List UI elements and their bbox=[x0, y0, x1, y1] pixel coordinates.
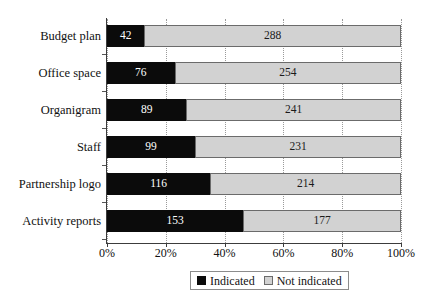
bar-value-label: 177 bbox=[314, 215, 331, 227]
stacked-bar-chart: Budget planOffice spaceOrganigramStaffPa… bbox=[0, 0, 428, 298]
bar-segment-not-indicated: 214 bbox=[210, 173, 401, 195]
bar-row: 42288 bbox=[107, 25, 401, 47]
bar-value-label: 288 bbox=[264, 30, 281, 42]
x-tick-label-20pct: 20% bbox=[155, 247, 177, 259]
bar-segment-indicated: 76 bbox=[107, 62, 175, 84]
legend-swatch-indicated-icon bbox=[197, 276, 206, 285]
chart-legend: IndicatedNot indicated bbox=[190, 271, 349, 290]
x-tick-mark bbox=[107, 243, 108, 247]
x-tick-label-100pct: 100% bbox=[387, 247, 415, 259]
category-label-organigram: Organigram bbox=[0, 104, 101, 117]
x-tick-label-40pct: 40% bbox=[214, 247, 236, 259]
x-tick-mark bbox=[401, 243, 402, 247]
x-axis-line bbox=[106, 243, 402, 244]
bar-segment-not-indicated: 231 bbox=[195, 136, 401, 158]
category-label-office-space: Office space bbox=[0, 67, 101, 80]
x-tick-label-80pct: 80% bbox=[331, 247, 353, 259]
bar-segment-indicated: 89 bbox=[107, 99, 186, 121]
bar-row: 76254 bbox=[107, 62, 401, 84]
category-label-activity-reports: Activity reports bbox=[0, 215, 101, 228]
bar-value-label: 231 bbox=[289, 141, 306, 153]
x-axis-tick-labels: 0%20%40%60%80%100% bbox=[0, 247, 428, 265]
bar-row: 153177 bbox=[107, 210, 401, 232]
x-tick-mark bbox=[166, 243, 167, 247]
legend-swatch-not-indicated-icon bbox=[264, 276, 273, 285]
bar-segment-not-indicated: 177 bbox=[243, 210, 401, 232]
y-axis-line bbox=[106, 18, 107, 244]
bar-value-label: 254 bbox=[279, 67, 296, 79]
bar-value-label: 153 bbox=[167, 215, 184, 227]
bar-value-label: 76 bbox=[135, 67, 147, 79]
bar-segment-indicated: 99 bbox=[107, 136, 195, 158]
bar-row: 116214 bbox=[107, 173, 401, 195]
legend-item-not-indicated: Not indicated bbox=[264, 275, 342, 287]
bar-segment-not-indicated: 288 bbox=[144, 25, 401, 47]
category-label-partnership-logo: Partnership logo bbox=[0, 178, 101, 191]
legend-item-indicated: Indicated bbox=[197, 275, 255, 287]
bar-value-label: 89 bbox=[141, 104, 153, 116]
bar-row: 89241 bbox=[107, 99, 401, 121]
category-label-budget-plan: Budget plan bbox=[0, 30, 101, 43]
bar-segment-not-indicated: 254 bbox=[175, 62, 401, 84]
bar-value-label: 99 bbox=[145, 141, 157, 153]
bar-row: 99231 bbox=[107, 136, 401, 158]
x-tick-mark bbox=[225, 243, 226, 247]
bar-segment-indicated: 116 bbox=[107, 173, 210, 195]
x-gridline-100 bbox=[401, 19, 402, 243]
bar-value-label: 42 bbox=[120, 30, 132, 42]
bar-value-label: 116 bbox=[150, 178, 167, 190]
plot-area: 42288762548924199231116214153177 bbox=[107, 19, 401, 243]
bar-value-label: 214 bbox=[297, 178, 314, 190]
bar-segment-indicated: 42 bbox=[107, 25, 144, 47]
x-tick-mark bbox=[342, 243, 343, 247]
legend-label: Indicated bbox=[210, 275, 255, 287]
bar-value-label: 241 bbox=[285, 104, 302, 116]
legend-label: Not indicated bbox=[277, 275, 342, 287]
x-tick-mark bbox=[283, 243, 284, 247]
category-label-staff: Staff bbox=[0, 141, 101, 154]
x-tick-label-0pct: 0% bbox=[99, 247, 115, 259]
bar-segment-not-indicated: 241 bbox=[186, 99, 401, 121]
bar-segment-indicated: 153 bbox=[107, 210, 243, 232]
x-tick-label-60pct: 60% bbox=[272, 247, 294, 259]
